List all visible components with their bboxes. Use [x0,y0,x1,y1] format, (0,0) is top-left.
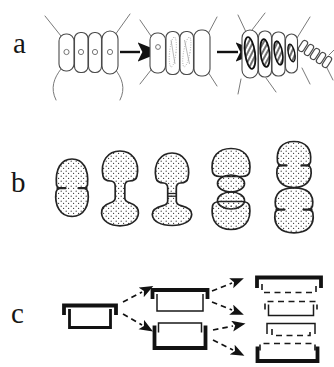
panel-b-drawing [56,142,313,233]
panel-a-label: a [13,27,26,59]
division-stage-4 [212,149,250,230]
daughter-cell-upper [153,290,208,311]
division-arrow [212,283,232,291]
division-arrow [213,340,233,350]
granddaughter-cell-1 [257,278,321,293]
granddaughter-cell-3 [267,324,315,336]
panel-a-drawing [45,13,334,100]
granddaughter-cell-4 [258,344,318,362]
division-arrow [212,302,232,310]
division-stage-2 [102,151,139,226]
parent-cell [64,306,116,328]
filament-stage-2 [140,17,217,86]
division-arrow [123,292,142,302]
panel-c-label: c [11,297,24,329]
division-stage-3 [152,153,191,226]
filament-stage-3 [238,13,334,94]
division-stage-5 [275,142,313,233]
division-arrow [123,314,142,325]
filament-stage-1 [45,14,130,100]
daughter-cell-lower [155,323,206,348]
granddaughter-cell-2 [265,302,317,316]
panel-c-drawing [64,278,321,362]
scientific-figure: a [0,0,334,367]
panel-b-label: b [11,166,26,198]
figure-canvas: a [0,0,334,367]
small-cell-chain [297,39,332,68]
division-arrow [213,326,233,330]
division-stage-1 [56,159,89,217]
